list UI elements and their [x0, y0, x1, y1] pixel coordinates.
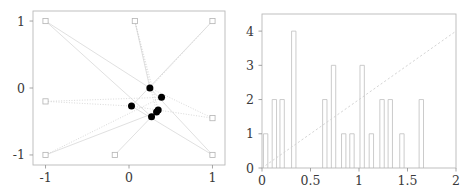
y-tick-label: 4 — [246, 24, 254, 39]
square-marker — [112, 152, 117, 157]
network-edge — [132, 21, 213, 106]
square-marker — [132, 18, 137, 23]
dot-marker — [146, 85, 153, 92]
figure-root: -101-101 00.511.5201234 — [0, 0, 472, 193]
reference-line-layer — [262, 31, 456, 168]
square-marker — [43, 99, 48, 104]
x-tick-label: 1 — [355, 173, 363, 188]
histogram-bar — [380, 100, 384, 168]
dot-marker — [148, 113, 155, 120]
square-marker — [210, 152, 215, 157]
histogram-panel: 00.511.5201234 — [236, 0, 472, 193]
x-tick-label: 1.5 — [398, 173, 418, 188]
histogram-bar — [400, 134, 404, 168]
histogram-bar — [323, 100, 327, 168]
x-tick-label: 2 — [452, 173, 460, 188]
y-tick-label: -1 — [13, 147, 25, 162]
network-edge — [46, 97, 162, 155]
y-tick-label: 3 — [246, 58, 254, 73]
y-tick-label: 0 — [246, 161, 254, 176]
network-edge — [46, 21, 150, 88]
edge-layer — [46, 21, 213, 155]
histogram-bar — [350, 134, 354, 168]
x-tick-label: 0 — [258, 173, 266, 188]
network-edge — [46, 101, 132, 106]
square-marker — [210, 116, 215, 121]
histogram-plot: 00.511.5201234 — [236, 0, 472, 193]
y-tick-label: 0 — [17, 81, 25, 96]
histogram-bar — [272, 100, 276, 168]
histogram-bar — [360, 65, 364, 168]
x-tick-label: 0 — [125, 170, 133, 185]
plot-frame — [262, 14, 456, 168]
network-edge — [135, 21, 150, 88]
diagonal-reference-line — [262, 31, 456, 168]
histogram-bar — [280, 100, 284, 168]
dot-marker — [128, 103, 135, 110]
y-tick-label: 1 — [246, 126, 254, 141]
plot-frame — [33, 11, 225, 165]
bar-layer — [263, 31, 423, 168]
square-marker-layer — [43, 18, 215, 157]
network-edge — [46, 97, 162, 101]
square-marker — [210, 18, 215, 23]
x-tick-label: -1 — [39, 170, 51, 185]
scatter-network-plot: -101-101 — [0, 0, 236, 193]
histogram-bar — [342, 134, 346, 168]
histogram-bar — [388, 100, 392, 168]
square-marker — [43, 152, 48, 157]
network-edge — [46, 112, 157, 155]
histogram-bar — [369, 134, 373, 168]
dot-marker — [158, 94, 165, 101]
histogram-bar — [263, 134, 267, 168]
histogram-bar — [419, 100, 423, 168]
tick-label-layer: 00.511.5201234 — [246, 24, 460, 188]
axes-layer — [259, 14, 457, 172]
network-edge — [132, 106, 213, 155]
x-tick-label: 0.5 — [301, 173, 321, 188]
y-tick-label: 2 — [246, 92, 254, 107]
x-tick-label: 1 — [209, 170, 217, 185]
square-marker — [43, 18, 48, 23]
scatter-network-panel: -101-101 — [0, 0, 236, 193]
y-tick-label: 1 — [17, 14, 25, 29]
network-edge — [115, 117, 152, 155]
histogram-bar — [292, 31, 296, 168]
